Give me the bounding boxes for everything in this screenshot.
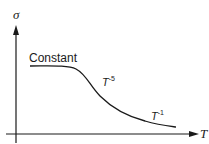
region-label-t-minus-1: T-1 — [151, 109, 164, 122]
x-axis-label: T — [200, 127, 207, 140]
region-label-t-minus-5: T-5 — [102, 75, 115, 88]
diagram-canvas — [0, 0, 209, 144]
y-axis-label: σ — [13, 8, 19, 21]
region-label-constant: Constant — [29, 52, 77, 64]
t-minus-1-base: T — [151, 110, 158, 122]
y-axis-arrow-icon — [13, 25, 19, 35]
t-minus-5-base: T — [102, 76, 109, 88]
t-minus-5-exponent: -5 — [109, 75, 115, 82]
x-axis-arrow-icon — [189, 131, 199, 137]
t-minus-1-exponent: -1 — [158, 109, 164, 116]
